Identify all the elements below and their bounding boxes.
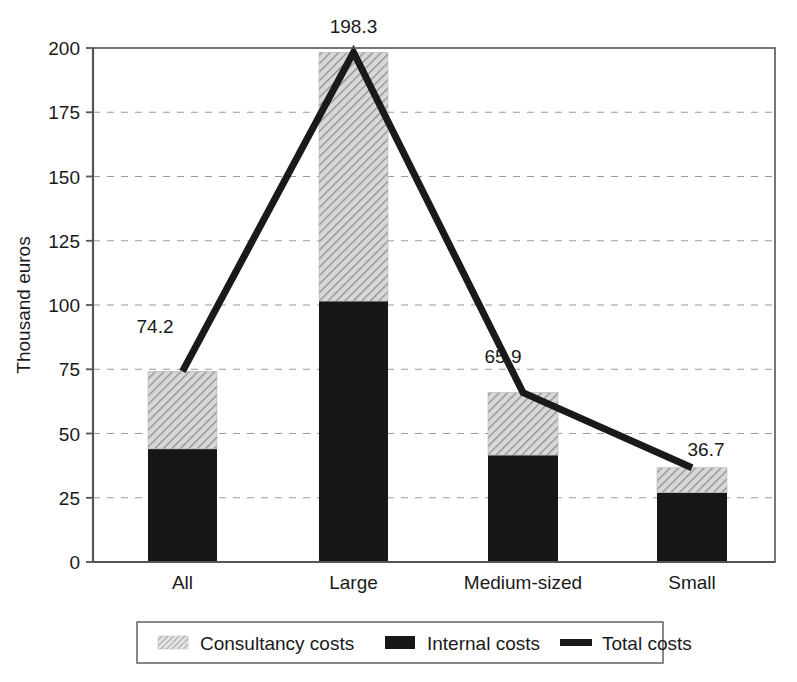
y-tick-label-150: 150 <box>48 167 80 188</box>
data-label-small: 36.7 <box>688 439 725 460</box>
chart-container: 0 25 50 75 100 125 150 175 200 Thousand … <box>0 0 797 682</box>
bar-group-large <box>319 52 388 562</box>
bar-internal-medium-sized <box>488 455 558 562</box>
x-category-label-small: Small <box>668 572 716 593</box>
bar-consultancy-all <box>148 371 217 449</box>
bar-internal-all <box>148 449 217 562</box>
x-category-label-medium-sized: Medium-sized <box>464 572 582 593</box>
x-category-label-all: All <box>172 572 193 593</box>
legend-swatch-consultancy-costs <box>158 636 188 649</box>
y-tick-label-75: 75 <box>59 359 80 380</box>
bar-line-combo-chart: 0 25 50 75 100 125 150 175 200 Thousand … <box>0 0 797 682</box>
legend: Consultancy costs Internal costs Total c… <box>137 622 692 663</box>
legend-label-internal-costs: Internal costs <box>427 633 540 654</box>
data-label-medium-sized: 65.9 <box>485 346 522 367</box>
bar-group-small <box>657 468 727 562</box>
y-tick-label-25: 25 <box>59 488 80 509</box>
legend-label-total-costs: Total costs <box>602 633 692 654</box>
bar-internal-large <box>319 301 388 562</box>
y-tick-label-125: 125 <box>48 231 80 252</box>
bar-consultancy-large <box>319 52 388 301</box>
y-tick-label-100: 100 <box>48 295 80 316</box>
bar-internal-small <box>657 493 727 562</box>
data-label-large: 198.3 <box>330 16 378 37</box>
legend-label-consultancy-costs: Consultancy costs <box>200 633 354 654</box>
y-tick-label-50: 50 <box>59 424 80 445</box>
legend-swatch-internal-costs <box>385 636 415 649</box>
data-label-all: 74.2 <box>137 316 174 337</box>
bar-group-all <box>148 371 217 562</box>
bar-group-medium-sized <box>488 393 558 562</box>
bar-consultancy-small <box>657 468 727 493</box>
y-tick-label-200: 200 <box>48 38 80 59</box>
x-category-label-large: Large <box>329 572 378 593</box>
y-tick-label-175: 175 <box>48 102 80 123</box>
y-tick-label-0: 0 <box>69 552 80 573</box>
y-axis-title: Thousand euros <box>13 236 34 373</box>
